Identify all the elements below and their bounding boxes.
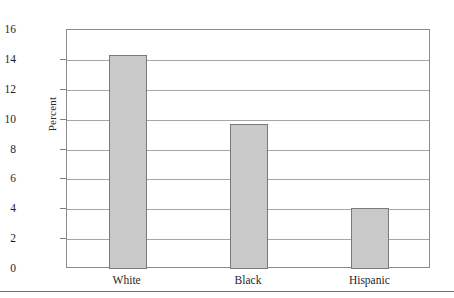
y-tick-label: 8 [0,143,16,155]
bottom-divider [0,291,454,292]
bar-chart-figure: Percent 0246810121416 WhiteBlackHispanic [0,0,454,298]
y-tick-label: 2 [0,232,16,244]
y-tick-label: 14 [0,53,16,65]
bar-hispanic [351,208,389,269]
bar-black [230,124,268,269]
y-tick-label: 16 [0,23,16,35]
bar-white [109,55,147,269]
x-tick-label-white: White [113,274,141,286]
y-tick-label: 0 [0,262,16,274]
y-tick-label: 6 [0,172,16,184]
x-tick-label-black: Black [235,274,262,286]
y-axis-title: Percent [46,74,58,154]
x-tick-label-hispanic: Hispanic [349,274,390,286]
plot-area [66,29,430,268]
y-tick-label: 10 [0,113,16,125]
y-tick-label: 4 [0,202,16,214]
y-tick-label: 12 [0,83,16,95]
